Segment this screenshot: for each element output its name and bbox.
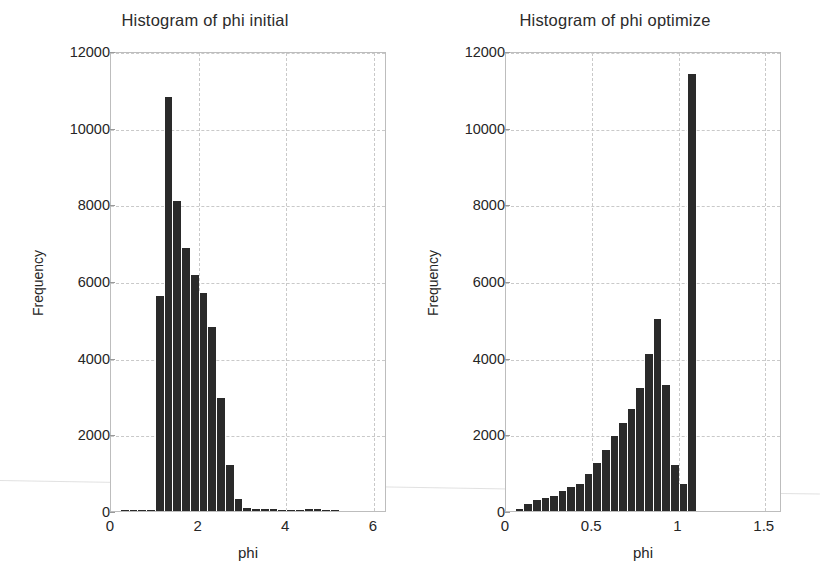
histogram-bar — [523, 504, 532, 511]
histogram-bar — [584, 474, 593, 511]
y-tick-mark — [505, 435, 510, 436]
plot-area-right — [505, 52, 781, 512]
histogram-bar — [269, 509, 278, 511]
gridline-vertical — [592, 53, 593, 511]
x-tick-label: 1.5 — [753, 517, 774, 534]
chart-title-left: Histogram of phi initial — [0, 11, 410, 30]
histogram-bar — [627, 409, 636, 511]
x-tick-label: 6 — [369, 517, 377, 534]
y-tick-mark — [505, 129, 510, 130]
histogram-bar — [181, 248, 190, 511]
histogram-bar — [653, 319, 662, 511]
y-tick-mark — [505, 512, 510, 513]
y-tick-label: 2000 — [410, 427, 511, 443]
y-tick-mark — [110, 512, 115, 513]
gridline-horizontal — [506, 206, 780, 207]
gridline-horizontal — [111, 130, 385, 131]
histogram-bar — [687, 74, 696, 511]
x-tick-label: 0 — [501, 517, 509, 534]
gridline-horizontal — [111, 53, 385, 54]
y-tick-label: 6000 — [0, 274, 116, 290]
histogram-bar — [679, 484, 688, 511]
histogram-bar — [532, 500, 541, 511]
gridline-horizontal — [506, 53, 780, 54]
histogram-bar — [610, 436, 619, 511]
histogram-bar — [635, 388, 644, 511]
histogram-bar — [137, 510, 146, 512]
gridline-vertical — [286, 53, 287, 511]
gridline-horizontal — [506, 360, 780, 361]
histogram-bar — [225, 465, 234, 511]
gridline-horizontal — [111, 436, 385, 437]
histogram-bar — [313, 509, 322, 511]
gridline-horizontal — [506, 283, 780, 284]
y-tick-label: 0 — [0, 504, 116, 520]
y-tick-mark — [110, 359, 115, 360]
histogram-bar — [277, 510, 286, 512]
chart-panel-phi-optimize: Histogram of phi optimize 02000400060008… — [410, 0, 820, 574]
histogram-bar — [120, 510, 129, 512]
y-tick-label: 8000 — [0, 197, 116, 213]
histogram-bar — [234, 499, 243, 511]
y-tick-label: 4000 — [410, 351, 511, 367]
y-tick-label: 12000 — [410, 44, 511, 60]
histogram-bar — [575, 484, 584, 511]
gridline-vertical — [374, 53, 375, 511]
histogram-bar — [592, 463, 601, 511]
plot-area-left — [110, 52, 386, 512]
x-axis-label-right: phi — [633, 544, 653, 561]
y-tick-mark — [505, 359, 510, 360]
histogram-bar — [129, 510, 138, 512]
x-axis-label-left: phi — [238, 544, 258, 561]
histogram-bar — [321, 510, 330, 512]
gridline-vertical — [765, 53, 766, 511]
y-tick-mark — [110, 205, 115, 206]
histogram-bar — [216, 398, 225, 511]
y-tick-label: 4000 — [0, 351, 116, 367]
chart-title-right: Histogram of phi optimize — [410, 11, 820, 30]
x-tick-label: 4 — [281, 517, 289, 534]
y-tick-mark — [110, 282, 115, 283]
histogram-bar — [295, 510, 304, 512]
gridline-vertical — [679, 53, 680, 511]
histogram-bar — [670, 465, 679, 511]
chart-panel-phi-initial: Histogram of phi initial 020004000600080… — [0, 0, 410, 574]
y-tick-label: 8000 — [410, 197, 511, 213]
histogram-bar — [207, 327, 216, 511]
histogram-bar — [260, 509, 269, 511]
x-tick-label: 0.5 — [581, 517, 602, 534]
histogram-bar — [515, 509, 524, 511]
y-axis-label-right: Frequency — [425, 233, 441, 333]
histogram-bar — [164, 97, 173, 511]
histogram-bar — [286, 510, 295, 512]
histogram-bar — [172, 201, 181, 512]
histogram-bar — [199, 293, 208, 512]
y-tick-label: 0 — [410, 504, 511, 520]
y-axis-label-left: Frequency — [30, 233, 46, 333]
y-tick-mark — [505, 282, 510, 283]
histogram-bar — [661, 385, 670, 512]
y-tick-label: 10000 — [0, 121, 116, 137]
x-tick-label: 1 — [673, 517, 681, 534]
gridline-horizontal — [111, 206, 385, 207]
y-tick-mark — [110, 129, 115, 130]
y-tick-mark — [110, 435, 115, 436]
gridline-horizontal — [111, 283, 385, 284]
x-tick-label: 2 — [193, 517, 201, 534]
histogram-bar — [549, 496, 558, 511]
gridline-horizontal — [506, 130, 780, 131]
histogram-bar — [304, 509, 313, 511]
histogram-bar — [541, 498, 550, 511]
y-tick-mark — [505, 52, 510, 53]
histogram-bar — [242, 508, 251, 511]
histogram-bar — [190, 275, 199, 511]
y-tick-mark — [505, 205, 510, 206]
histogram-bar — [155, 296, 164, 511]
y-tick-label: 2000 — [0, 427, 116, 443]
histogram-bar — [601, 450, 610, 511]
histogram-bar — [146, 510, 155, 512]
y-tick-mark — [110, 52, 115, 53]
histogram-bar — [644, 354, 653, 511]
histogram-bar — [618, 423, 627, 511]
gridline-horizontal — [111, 360, 385, 361]
